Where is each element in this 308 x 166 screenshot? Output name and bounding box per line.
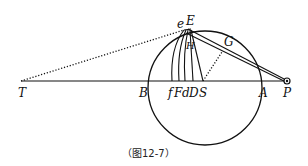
figure-caption: （图12-7） (122, 148, 175, 159)
label-E: E (185, 14, 195, 28)
label-A: A (258, 86, 268, 100)
line-EP-upper (188, 29, 286, 80)
dotted-line-SG (203, 52, 222, 81)
dotted-line-Te (21, 30, 184, 81)
label-P: P (282, 86, 292, 100)
point-P-marker-inner (286, 80, 288, 82)
label-S: S (199, 86, 207, 100)
label-T: T (18, 86, 27, 100)
label-D: D (188, 86, 199, 100)
label-e: e (177, 17, 184, 31)
label-H: H (185, 40, 195, 51)
curve-Ed (184, 30, 188, 81)
label-B: B (138, 86, 148, 100)
label-G: G (224, 35, 234, 49)
geometry-diagram: T B f F d D S A P e E G H （图12-7） (0, 0, 308, 166)
